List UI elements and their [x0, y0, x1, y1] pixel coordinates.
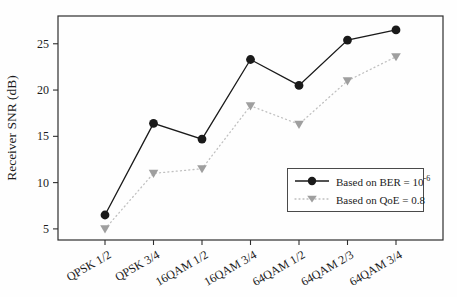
data-point-ber — [101, 211, 110, 220]
legend-entry-ber: Based on BER = 10-6 — [294, 173, 420, 190]
data-point-ber — [246, 55, 255, 64]
legend-label-qoe: Based on QoE = 0.8 — [336, 193, 425, 206]
y-axis-tick-label: 20 — [37, 83, 49, 97]
data-point-ber — [392, 25, 401, 34]
qoe-legend-marker — [294, 192, 330, 206]
y-axis-tick-label: 10 — [37, 176, 49, 190]
legend-label-ber-sup: -6 — [423, 174, 430, 183]
snr-line-chart: 510152025QPSK 1/2QPSK 3/416QAM 1/216QAM … — [0, 0, 457, 297]
x-axis-tick-label: 64QAM 1/2 — [250, 247, 308, 288]
legend-label-qoe-text: Based on QoE = 0.8 — [336, 193, 425, 205]
y-axis-tick-label: 25 — [37, 37, 49, 51]
y-axis-tick-label: 15 — [37, 129, 49, 143]
data-point-ber — [149, 119, 158, 128]
x-axis-tick-label: 16QAM 1/2 — [153, 247, 211, 288]
snr-chart-figure: 510152025QPSK 1/2QPSK 3/416QAM 1/216QAM … — [0, 0, 457, 297]
ber-legend-marker — [294, 174, 330, 188]
data-point-ber — [343, 36, 352, 45]
legend-entry-qoe: Based on QoE = 0.8 — [294, 191, 420, 208]
data-point-qoe — [294, 121, 304, 129]
x-axis-tick-label: 64QAM 3/4 — [347, 247, 405, 288]
data-point-qoe — [149, 170, 159, 178]
data-point-ber — [295, 81, 304, 90]
y-axis-title: Receiver SNR (dB) — [4, 75, 19, 181]
x-axis-tick-label: 16QAM 3/4 — [201, 247, 259, 288]
x-axis-tick-label: QPSK 1/2 — [64, 247, 113, 284]
data-point-ber — [198, 135, 207, 144]
ber-legend-circle-icon — [308, 177, 316, 185]
chart-legend: Based on BER = 10-6 Based on QoE = 0.8 — [287, 168, 424, 212]
y-axis-tick-label: 5 — [43, 222, 49, 236]
legend-label-ber: Based on BER = 10-6 — [336, 175, 430, 188]
legend-label-ber-text: Based on BER = 10 — [336, 175, 423, 187]
data-point-qoe — [391, 53, 401, 61]
x-axis-tick-label: 64QAM 2/3 — [298, 247, 356, 288]
data-point-qoe — [100, 225, 110, 233]
data-point-qoe — [343, 77, 353, 85]
